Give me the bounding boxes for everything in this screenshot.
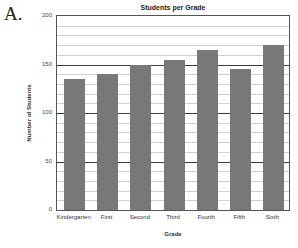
bar-second <box>130 65 151 211</box>
plot-area <box>56 15 290 211</box>
bar-kindergarten <box>64 79 85 210</box>
y-tick-label: 150 <box>22 61 52 67</box>
y-tick-label: 50 <box>22 158 52 164</box>
minor-gridline <box>57 55 289 56</box>
minor-gridline <box>57 26 289 27</box>
bar-first <box>97 74 118 210</box>
x-tick-label: Sixth <box>252 214 292 220</box>
bar-third <box>164 60 185 210</box>
y-tick-label: 200 <box>22 12 52 18</box>
problem-label: A. <box>4 3 22 25</box>
bar-fifth <box>230 69 251 210</box>
bar-sixth <box>263 45 284 210</box>
x-axis-label: Grade <box>56 231 290 237</box>
y-tick-label: 0 <box>22 206 52 212</box>
chart-title: Students per Grade <box>56 4 290 11</box>
bar-fourth <box>197 50 218 210</box>
minor-gridline <box>57 45 289 46</box>
y-axis-label: Number of Students <box>26 84 32 141</box>
minor-gridline <box>57 35 289 36</box>
